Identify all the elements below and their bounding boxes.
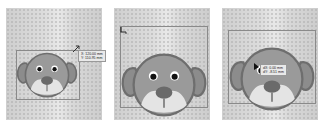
dog-face-illustration[interactable] (14, 46, 80, 100)
scale-tooltip: X: 120.00 mm Y: 110.95 mm (78, 50, 106, 62)
corner-cursor-icon (120, 26, 128, 34)
move-tooltip: dX: 0.00 mm dY: -8.51 mm (260, 64, 287, 76)
canvas-panel-3: dX: 0.00 mm dY: -8.51 mm (222, 8, 318, 120)
tooltip-y: Y: 110.95 mm (81, 56, 103, 60)
canvas-panel-1: X: 120.00 mm Y: 110.95 mm (6, 8, 102, 120)
tooltip-dy: dY: -8.51 mm (263, 70, 284, 74)
canvas-panel-2 (114, 8, 210, 120)
dog-face-illustration[interactable] (224, 38, 320, 114)
dog-face-illustration[interactable] (116, 44, 212, 120)
